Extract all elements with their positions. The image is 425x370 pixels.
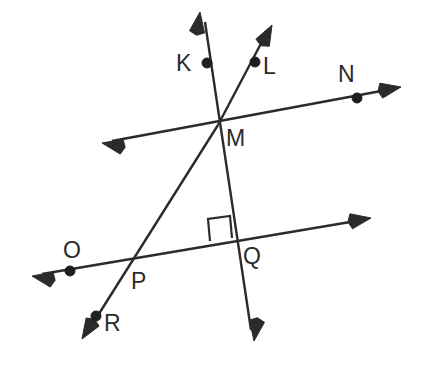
label-M: M: [226, 127, 245, 150]
arrow-OQ-right-icon: [348, 214, 371, 229]
arrow-OQ-left-icon: [32, 272, 55, 287]
geometry-canvas: [0, 0, 425, 370]
right-angle-at-Q-icon: [208, 216, 232, 241]
label-R: R: [104, 312, 121, 335]
point-L: [250, 57, 260, 67]
arrow-K-ray-up-icon: [190, 12, 205, 35]
arrow-L-ray-icon: [256, 25, 272, 46]
arrow-MN-right-icon: [378, 83, 401, 98]
point-O: [65, 266, 75, 276]
line-O-P-Q: [42, 220, 362, 274]
point-K: [202, 58, 212, 68]
label-O: O: [63, 239, 81, 262]
point-R: [91, 311, 101, 321]
line-M-N: [112, 89, 392, 141]
arrow-M-down-icon: [249, 318, 264, 341]
ray-M-L: [218, 34, 266, 125]
arrow-MN-left-icon: [102, 139, 125, 154]
point-N: [352, 93, 362, 103]
label-N: N: [338, 63, 355, 86]
label-L: L: [263, 55, 276, 78]
line-K-M-Q-down: [205, 22, 251, 330]
label-P: P: [131, 270, 146, 293]
label-K: K: [176, 52, 191, 75]
label-Q: Q: [243, 245, 261, 268]
points-group: [65, 57, 362, 321]
geometry-figure: K L N M O P Q R: [0, 0, 425, 370]
line-M-P-R: [90, 125, 218, 328]
right-angle-marker-group: [208, 216, 232, 241]
